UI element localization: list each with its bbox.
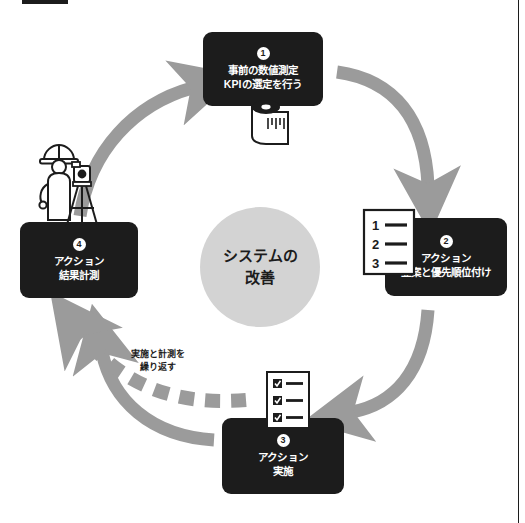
feedback-loop-caption-line-2: 繰り返す xyxy=(108,361,208,374)
step-node-2-line-1: アクション xyxy=(421,251,471,265)
surveyor-icon xyxy=(28,140,114,232)
list-number-2: 2 xyxy=(372,237,379,252)
step-number-badge-4: 4 xyxy=(73,238,86,251)
step-node-3-line-1: アクション xyxy=(258,450,308,464)
step-node-1[interactable]: 1 事前の数値測定 KPIの選定を行う xyxy=(203,32,323,106)
step-node-1-line-1: 事前の数値測定 xyxy=(228,63,299,77)
step-number-badge-3: 3 xyxy=(277,434,290,447)
center-hub: システムの 改善 xyxy=(200,207,320,327)
feedback-loop-caption-line-1: 実施と計測を xyxy=(108,348,208,361)
step-node-4-line-2: 結果計測 xyxy=(59,268,99,282)
step-node-4-line-1: アクション xyxy=(54,254,104,268)
list-number-3: 3 xyxy=(372,256,379,271)
step-number-badge-2: 2 xyxy=(440,235,453,248)
center-hub-line-2: 改善 xyxy=(245,267,275,289)
diagram-canvas: システムの 改善 実施と計測を 繰り返す 1 2 3 xyxy=(0,0,525,523)
step-number-badge-1: 1 xyxy=(257,47,270,60)
arrow-2-to-3 xyxy=(352,310,428,412)
step-node-3-line-2: 実施 xyxy=(273,464,293,478)
list-number-1: 1 xyxy=(372,218,379,233)
center-hub-line-1: システムの xyxy=(223,245,298,267)
arrow-1-to-2 xyxy=(337,72,428,185)
tape-measure-icon xyxy=(246,96,306,148)
page-right-rule xyxy=(518,0,519,523)
step-node-1-line-2: KPIの選定を行う xyxy=(224,77,302,91)
page-top-left-bar xyxy=(22,0,68,4)
numbered-list-icon: 1 2 3 xyxy=(362,208,420,280)
feedback-loop-caption: 実施と計測を 繰り返す xyxy=(108,348,208,373)
checklist-icon xyxy=(265,370,313,432)
step-node-4[interactable]: 4 アクション 結果計測 xyxy=(20,222,138,298)
